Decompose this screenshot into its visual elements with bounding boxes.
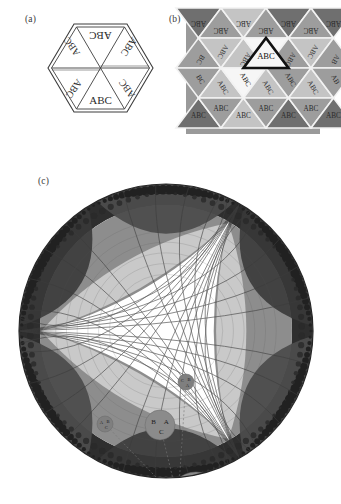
- disk-scallop: [294, 286, 299, 291]
- disk-scallop: [126, 459, 131, 464]
- disk-scallop: [254, 438, 260, 444]
- disk-scallop: [145, 193, 149, 197]
- disk-scallop: [91, 443, 97, 449]
- disk-scallop: [34, 371, 39, 376]
- disk-scallop: [113, 194, 119, 200]
- disk-scallop: [108, 196, 113, 201]
- disk-scallop: [97, 457, 100, 460]
- disk-scallop: [165, 192, 167, 194]
- disk-scallop: [99, 448, 105, 454]
- lattice-tile-label: ABC: [191, 112, 206, 120]
- lattice-tile-label: ABC: [281, 112, 296, 120]
- disk-scallop: [307, 341, 311, 345]
- disk-scallop: [309, 335, 312, 338]
- lattice-tile-label: ABC: [213, 26, 228, 34]
- panel-b-lattice: ABCABCABCABCABCABCABCBCABCABCABCABCABCAB…: [186, 14, 320, 134]
- disk-scallop: [124, 464, 131, 471]
- disk-vertex-letter: C: [159, 428, 164, 436]
- disk-scallop: [45, 261, 47, 263]
- disk-svg: CABACBBACCABABCCBAABCABCBCA: [18, 168, 320, 498]
- disk-scallop: [45, 399, 47, 401]
- disk-scallop: [296, 361, 301, 366]
- hexagon-tri-label-top: ABC: [89, 30, 112, 42]
- panel-a-hexagon: ABC ABC ABC ABC ABC ABC: [48, 18, 153, 118]
- disk-scallop: [77, 443, 82, 448]
- disk-connector: [178, 500, 270, 504]
- disk-scallop: [27, 333, 33, 339]
- disk-scallop: [62, 237, 67, 242]
- disk-scallop: [83, 438, 89, 444]
- disk-scallop: [103, 199, 107, 203]
- disk-scallop: [76, 224, 82, 230]
- lattice-tile-label: ABC: [326, 112, 341, 120]
- disk-scallop: [92, 455, 94, 457]
- disk-vertex-letter: C: [269, 489, 274, 497]
- disk-scallop: [174, 467, 177, 470]
- disk-scallop: [22, 352, 28, 358]
- disk-scallop: [299, 323, 305, 329]
- disk-scallop: [201, 459, 206, 464]
- disk-scallop: [108, 461, 113, 466]
- lattice-tile-label: ABC: [259, 105, 274, 113]
- disk-scallop: [265, 237, 270, 242]
- disk-scallop: [285, 261, 287, 263]
- figure-root: (a) ABC ABC: [0, 0, 341, 504]
- disk-scallop: [291, 380, 295, 384]
- disk-scallop: [117, 456, 123, 462]
- disk-scallop: [304, 352, 310, 358]
- lattice-tile-label: ABC: [303, 26, 318, 34]
- disk-scallop: [20, 335, 23, 338]
- disk-scallop: [279, 406, 282, 409]
- disk-vertex-letter: B: [187, 377, 190, 382]
- disk-scallop: [41, 269, 44, 272]
- disk-scallop: [29, 352, 35, 358]
- disk-vertex-circle: [293, 453, 309, 469]
- disk-scallop: [297, 304, 303, 310]
- lattice-tile-label: ABC: [236, 112, 251, 120]
- disk-scallop: [29, 304, 35, 310]
- disk-scallop: [310, 330, 312, 332]
- lattice-tile-label: ABC: [326, 19, 341, 27]
- disk-scallop: [20, 323, 23, 326]
- disk-scallop: [92, 204, 94, 206]
- disk-scallop: [296, 295, 301, 300]
- disk-scallop: [299, 333, 305, 339]
- disk-scallop: [28, 314, 34, 320]
- disk-scallop: [207, 192, 214, 199]
- disk-scallop: [242, 207, 245, 210]
- disk-scallop: [285, 399, 287, 401]
- disk-scallop: [213, 194, 219, 200]
- disk-vertex-letter: A: [296, 457, 300, 462]
- disk-scallop: [213, 462, 219, 468]
- disk-scallop: [126, 197, 131, 202]
- disk-scallop: [306, 346, 311, 351]
- disk-scallop: [309, 323, 312, 326]
- disk-scallop: [135, 462, 140, 467]
- disk-scallop: [279, 253, 282, 256]
- disk-scallop: [192, 462, 197, 467]
- lattice-tile-label: ABC: [281, 19, 296, 27]
- disk-scallop: [108, 204, 114, 210]
- disk-scallop: [243, 438, 249, 444]
- disk-vertex-letter: C: [105, 425, 108, 430]
- disk-scallop: [258, 426, 263, 431]
- disk-scallop: [297, 352, 303, 358]
- disk-scallop: [62, 420, 67, 425]
- disk-scallop: [174, 192, 177, 195]
- disk-scallop: [231, 201, 234, 204]
- disk-scallop: [165, 468, 167, 470]
- disk-vertex-group: ABC: [293, 453, 309, 469]
- disk-scallop: [82, 447, 86, 451]
- disk-scallop: [103, 459, 107, 463]
- disk-scallop: [72, 218, 78, 224]
- disk-scallop: [31, 295, 36, 300]
- disk-scallop: [294, 371, 299, 376]
- lattice-tile-label: ABC: [304, 105, 319, 113]
- lattice-tile-label: ABC: [214, 105, 229, 113]
- disk-vertex-letter: B: [264, 499, 269, 504]
- disk-scallop: [21, 310, 26, 315]
- lattice-svg: ABCABCABCABCABCABCABCBCABCABCABCABCABCAB…: [186, 14, 320, 134]
- disk-connector: [178, 496, 265, 500]
- disk-vertex-letter: A: [164, 418, 169, 426]
- disk-scallop: [31, 361, 36, 366]
